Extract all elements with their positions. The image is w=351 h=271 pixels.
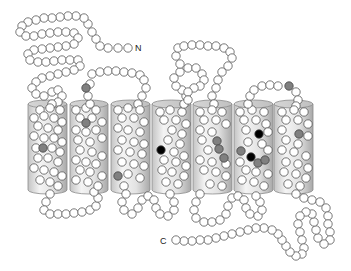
residue bbox=[72, 106, 80, 114]
residue bbox=[38, 45, 46, 53]
residue bbox=[176, 140, 184, 148]
residue bbox=[54, 210, 62, 218]
residue bbox=[164, 136, 172, 144]
residue bbox=[312, 226, 320, 234]
residue bbox=[252, 192, 260, 200]
highlighted-residue-gray bbox=[237, 147, 245, 155]
residue bbox=[50, 168, 58, 176]
residue bbox=[124, 104, 132, 112]
icl1 bbox=[40, 188, 102, 218]
residue bbox=[76, 166, 84, 174]
residue bbox=[140, 140, 148, 148]
residue bbox=[290, 106, 298, 114]
residue bbox=[212, 116, 220, 124]
residue bbox=[92, 202, 100, 210]
residue bbox=[114, 106, 122, 114]
residue bbox=[162, 178, 170, 186]
residue bbox=[54, 43, 62, 51]
residue bbox=[236, 158, 244, 166]
residue bbox=[136, 106, 144, 114]
residue bbox=[126, 148, 134, 156]
residue bbox=[38, 30, 46, 38]
residue bbox=[274, 82, 282, 90]
residue bbox=[252, 116, 260, 124]
residue bbox=[134, 204, 142, 212]
residue bbox=[204, 146, 212, 154]
residue bbox=[150, 196, 158, 204]
residue bbox=[180, 42, 188, 50]
residue bbox=[130, 160, 138, 168]
residue bbox=[62, 28, 70, 36]
residue bbox=[80, 14, 88, 22]
residue bbox=[294, 160, 302, 168]
residue bbox=[196, 126, 204, 134]
residue bbox=[58, 172, 66, 180]
snake-plot-diagram: N C bbox=[0, 0, 351, 271]
residue bbox=[70, 66, 78, 74]
residue bbox=[176, 60, 184, 68]
residue bbox=[50, 134, 58, 142]
residue bbox=[34, 154, 42, 162]
residue bbox=[214, 76, 222, 84]
residue bbox=[58, 56, 66, 64]
residue bbox=[282, 158, 290, 166]
residue bbox=[48, 14, 56, 22]
residue bbox=[88, 70, 96, 78]
residue bbox=[120, 206, 128, 214]
residue bbox=[244, 100, 252, 108]
residue bbox=[228, 54, 236, 62]
residue bbox=[44, 124, 52, 132]
residue bbox=[82, 128, 90, 136]
residue bbox=[140, 162, 148, 170]
residue bbox=[72, 126, 80, 134]
residue bbox=[40, 14, 48, 22]
residue bbox=[72, 12, 80, 20]
highlighted-residue-gray bbox=[261, 156, 269, 164]
residue bbox=[264, 170, 272, 178]
residue bbox=[58, 138, 66, 146]
residue bbox=[46, 44, 54, 52]
residue bbox=[222, 210, 230, 218]
residue bbox=[326, 228, 334, 236]
residue bbox=[114, 124, 122, 132]
residue bbox=[268, 226, 276, 234]
residue bbox=[172, 116, 180, 124]
residue bbox=[240, 196, 248, 204]
highlighted-residue-black bbox=[157, 146, 165, 154]
residue bbox=[122, 190, 130, 198]
residue bbox=[246, 210, 254, 218]
residue bbox=[302, 152, 310, 160]
residue bbox=[160, 116, 168, 124]
residue bbox=[170, 148, 178, 156]
residue bbox=[188, 41, 196, 49]
residue bbox=[44, 154, 52, 162]
residue bbox=[62, 210, 70, 218]
residue bbox=[130, 138, 138, 146]
residue bbox=[30, 32, 38, 40]
residue bbox=[50, 57, 58, 65]
residue bbox=[32, 16, 40, 24]
residue bbox=[300, 108, 308, 116]
residue bbox=[310, 218, 318, 226]
residue bbox=[262, 120, 270, 128]
residue bbox=[22, 32, 30, 40]
residue bbox=[212, 84, 220, 92]
residue bbox=[114, 146, 122, 154]
residue bbox=[46, 29, 54, 37]
residue bbox=[300, 194, 308, 202]
residue bbox=[292, 170, 300, 178]
n-terminal-tail bbox=[16, 12, 132, 108]
residue bbox=[156, 210, 164, 218]
residue bbox=[260, 224, 268, 232]
residue bbox=[124, 170, 132, 178]
residue bbox=[92, 160, 100, 168]
residue bbox=[208, 158, 216, 166]
residue bbox=[236, 228, 244, 236]
residue bbox=[278, 146, 286, 154]
residue bbox=[196, 236, 204, 244]
residue bbox=[34, 58, 42, 66]
residue bbox=[176, 68, 184, 76]
residue bbox=[266, 81, 274, 89]
residue bbox=[244, 138, 252, 146]
residue bbox=[88, 148, 96, 156]
